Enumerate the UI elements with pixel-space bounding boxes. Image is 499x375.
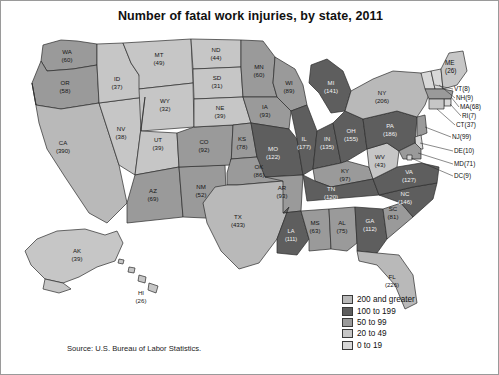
label-UT: UT (154, 136, 162, 143)
label-IA: IA (262, 103, 269, 110)
label-AR: AR (278, 184, 287, 191)
legend-swatch-200-and-greater (342, 295, 353, 304)
value-IN: (135) (320, 143, 334, 150)
label-MN: MN (254, 63, 263, 70)
value-SD: (31) (212, 82, 223, 89)
label-MT: MT (155, 51, 164, 58)
label-MS: MS (310, 219, 319, 226)
value-NE: (39) (215, 112, 226, 119)
value-SC: (81) (388, 213, 399, 220)
label-PA: PA (386, 122, 395, 129)
label-OK: OK (255, 163, 264, 170)
value-UT: (39) (153, 144, 164, 151)
value-AL: (75) (337, 227, 348, 234)
callout-RI: RI(7) (462, 112, 476, 120)
legend-item: 200 and greater (342, 294, 478, 305)
state-NY[interactable] (345, 71, 431, 119)
callout-NH: NH(9) (456, 94, 473, 102)
state-HI[interactable] (118, 259, 124, 264)
label-ND: ND (212, 46, 221, 53)
value-MI: (141) (324, 87, 338, 94)
legend-item: 0 to 19 (342, 340, 478, 351)
callout-DC: DC(9) (454, 172, 471, 180)
value-TX: (433) (231, 221, 245, 228)
value-WV: (43) (375, 161, 386, 168)
value-IL: (177) (297, 143, 311, 150)
label-SD: SD (213, 74, 222, 81)
value-OK: (86) (254, 171, 265, 178)
value-WA: (60) (62, 56, 73, 63)
value-FL: (226) (385, 281, 399, 288)
value-KS: (78) (237, 143, 248, 150)
value-TN: (120) (324, 193, 338, 200)
label-NM: NM (196, 183, 205, 190)
label-NC: NC (401, 190, 410, 197)
state-RI[interactable] (444, 99, 451, 106)
value-VA: (127) (402, 176, 416, 183)
value-OR: (58) (60, 87, 71, 94)
state-HI[interactable] (138, 275, 146, 283)
state-HI[interactable] (148, 283, 158, 293)
legend: 200 and greater 100 to 199 50 to 99 20 t… (342, 294, 478, 351)
label-MI: MI (328, 79, 335, 86)
choropleth-map: WA (60) OR (58) CA (390) NV (38) ID (37)… (1, 27, 499, 327)
label-OH: OH (346, 127, 355, 134)
label-AL: AL (338, 219, 346, 226)
callout-MA: MA(68) (460, 103, 481, 111)
legend-swatch-100-to-199 (342, 307, 353, 316)
label-NE: NE (216, 104, 224, 111)
callout-MD: MD(71) (454, 160, 475, 168)
legend-swatch-20-to-49 (342, 329, 353, 338)
state-HI[interactable] (128, 267, 135, 273)
value-MO: (122) (266, 153, 280, 160)
label-ID: ID (114, 75, 121, 82)
label-OR: OR (60, 79, 70, 86)
value-OH: (155) (344, 135, 358, 142)
value-AR: (93) (277, 192, 288, 199)
value-PA: (186) (383, 130, 397, 137)
label-TX: TX (234, 213, 242, 220)
label-AK: AK (73, 247, 81, 254)
label-CA: CA (59, 139, 68, 146)
state-DC[interactable] (407, 155, 412, 160)
source-note: Source: U.S. Bureau of Labor Statistics. (67, 344, 201, 353)
label-WY: WY (160, 97, 170, 104)
state-MI[interactable] (309, 59, 351, 113)
callout-CT: CT(37) (456, 121, 476, 129)
label-VA: VA (405, 168, 414, 175)
label-SC: SC (389, 205, 398, 212)
value-NV: (38) (116, 133, 127, 140)
label-AZ: AZ (149, 187, 157, 194)
legend-item: 100 to 199 (342, 305, 478, 316)
label-LA: LA (288, 228, 295, 234)
value-ND: (44) (211, 54, 222, 61)
value-MN: (60) (254, 71, 265, 78)
value-AZ: (69) (148, 195, 159, 202)
value-AK: (39) (72, 255, 83, 262)
label-GA: GA (366, 217, 376, 224)
value-WI: (89) (284, 87, 295, 94)
value-CO: (92) (199, 146, 210, 153)
value-MT: (49) (154, 59, 165, 66)
callout-ME-value: (26) (445, 67, 456, 75)
state-CT[interactable] (429, 99, 444, 109)
label-CO: CO (199, 138, 208, 145)
value-HI: (26) (136, 297, 147, 304)
state-MA[interactable] (425, 89, 453, 99)
label-KY: KY (341, 167, 349, 174)
label-MO: MO (268, 145, 278, 152)
legend-swatch-0-to-19 (342, 341, 353, 350)
value-IA: (93) (260, 111, 271, 118)
label-WI: WI (285, 79, 293, 86)
page-title: Number of fatal work injuries, by state,… (1, 9, 499, 23)
callout-NJ: NJ(99) (452, 133, 471, 141)
legend-label-200-and-greater: 200 and greater (357, 295, 415, 304)
label-WV: WV (375, 153, 386, 160)
legend-item: 20 to 49 (342, 328, 478, 339)
label-KS: KS (238, 135, 246, 142)
label-FL: FL (388, 273, 396, 280)
state-NJ[interactable] (417, 115, 427, 137)
label-IN: IN (324, 135, 330, 142)
legend-label-50-to-99: 50 to 99 (357, 318, 387, 327)
label-HI: HI (138, 289, 144, 296)
